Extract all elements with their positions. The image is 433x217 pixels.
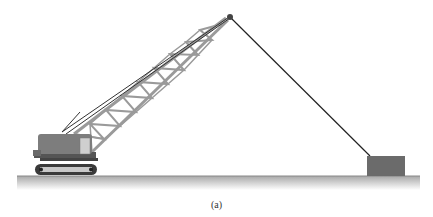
ground-surface — [17, 176, 420, 190]
pulley-sheave-icon — [227, 14, 233, 20]
lattice-boom — [74, 18, 228, 152]
figure-caption: (a) — [0, 199, 433, 210]
crane-diagram — [0, 0, 433, 217]
crawler-tracks — [35, 164, 97, 175]
hoist-cable — [230, 17, 370, 156]
crawler-crane — [33, 134, 98, 175]
load-block — [367, 156, 405, 176]
